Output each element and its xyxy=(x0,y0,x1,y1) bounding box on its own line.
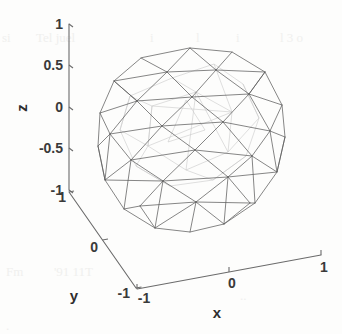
z-tick-label-neg0.5: -0.5 xyxy=(39,140,63,156)
z-tick-0.5 xyxy=(69,65,73,68)
x-tick-label-0: 0 xyxy=(228,275,236,291)
z-axis-label: z xyxy=(13,104,30,112)
scan-bleedthrough-artifacts: si Tel juel i l i l 3 o Fm '91 11T .. . xyxy=(2,30,303,333)
plot-svg: si Tel juel i l i l 3 o Fm '91 11T .. . xyxy=(0,0,342,334)
svg-text:i: i xyxy=(236,30,240,45)
y-tick-0 xyxy=(103,239,109,240)
y-axis: 1 0 -1 y xyxy=(58,189,141,304)
z-tick-0 xyxy=(69,107,73,110)
svg-text:Fm: Fm xyxy=(6,264,23,279)
z-tick-label-1: 1 xyxy=(55,16,63,32)
figure-canvas: si Tel juel i l i l 3 o Fm '91 11T .. . xyxy=(0,0,342,334)
svg-text:si: si xyxy=(2,30,11,45)
z-tick-label-0: 0 xyxy=(55,99,63,115)
y-tick-label-0: 0 xyxy=(90,239,98,255)
y-tick-label-neg1: -1 xyxy=(118,285,131,301)
y-tick-label-1: 1 xyxy=(58,189,66,205)
x-tick-label-1: 1 xyxy=(320,259,328,275)
svg-text:'91 11T: '91 11T xyxy=(54,264,93,279)
y-axis-label: y xyxy=(70,287,79,304)
x-axis-label: x xyxy=(213,304,222,321)
z-tick-label-0.5: 0.5 xyxy=(44,57,64,73)
sphere-mesh-wireframe xyxy=(98,48,285,232)
svg-text:Tel juel: Tel juel xyxy=(36,30,76,45)
svg-text:.: . xyxy=(6,318,9,333)
z-tick-neg0.5 xyxy=(69,148,73,151)
svg-text:..: .. xyxy=(240,288,247,303)
svg-text:l 3 o: l 3 o xyxy=(280,30,303,45)
svg-text:i: i xyxy=(150,30,154,45)
svg-text:l: l xyxy=(196,30,200,45)
x-tick-label-neg1: -1 xyxy=(138,290,151,306)
z-tick-1 xyxy=(69,24,73,27)
x-axis: -1 0 1 x xyxy=(137,250,328,321)
